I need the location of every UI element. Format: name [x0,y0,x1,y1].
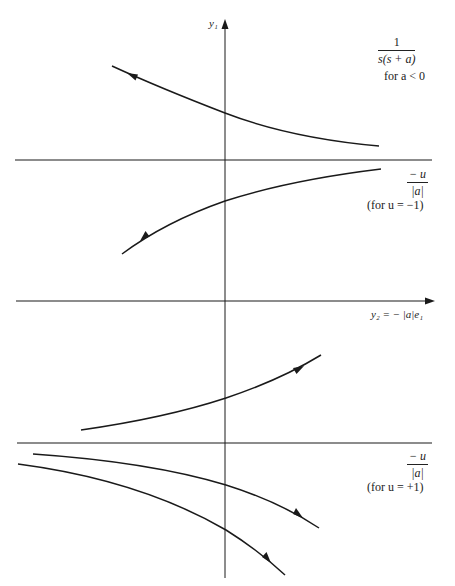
trajectory-1-arrow-icon [127,73,138,81]
upper-fraction-denominator: |a| [407,183,428,197]
trajectory-2-arrow-icon [140,231,150,241]
trajectory-4-arrow-icon [293,508,303,518]
y1-axis-label: y₁ [209,18,218,29]
lower-region-fraction: − u |a| [407,450,428,479]
y1-axis-arrowhead-icon [222,19,229,29]
transfer-function: 1 s(s + a) [378,36,415,65]
trajectory-1 [112,66,379,146]
trajectory-4 [33,454,319,528]
y2-axis-arrowhead-icon [425,298,435,305]
transfer-function-numerator: 1 [378,36,415,51]
upper-fraction-numerator: − u [407,168,428,183]
upper-region-fraction: − u |a| [407,168,428,197]
transfer-function-denominator: s(s + a) [378,51,415,65]
y1-axis [222,19,229,578]
trajectory-3-arrow-icon [293,366,304,374]
top-condition-label: for a < 0 [384,70,425,82]
trajectory-3 [81,355,321,430]
trajectory-5-arrow-icon [262,552,271,563]
trajectory-2 [122,169,381,254]
trajectory-5 [18,464,285,575]
lower-fraction-numerator: − u [407,450,428,465]
upper-region-condition: (for u = −1) [367,199,424,211]
phase-plane-diagram [0,0,455,586]
lower-region-condition: (for u = +1) [367,481,424,493]
y2-axis-label: y₂ = − |a|e₁ [371,309,423,320]
lower-fraction-denominator: |a| [407,465,428,479]
